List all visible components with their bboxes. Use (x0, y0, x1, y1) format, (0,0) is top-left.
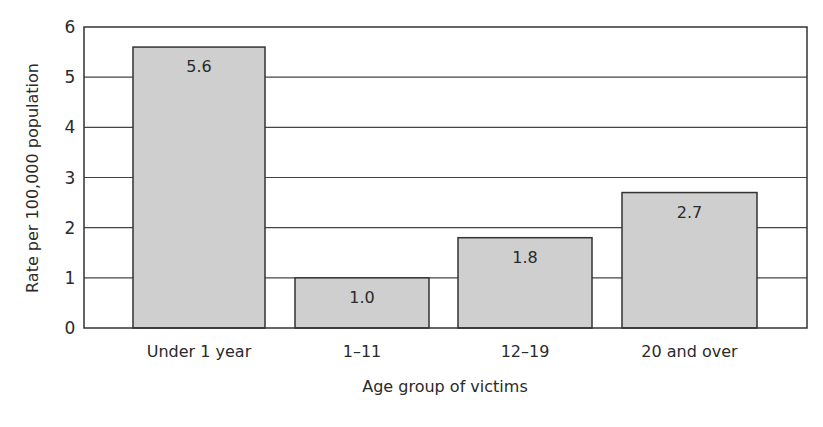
y-tick-label: 1 (65, 268, 76, 288)
x-category-label: 1–11 (343, 342, 382, 361)
bars: 5.61.01.82.7 (133, 47, 757, 328)
y-tick-label: 4 (65, 117, 76, 137)
y-tick-label: 5 (65, 67, 76, 87)
y-tick-label: 2 (65, 218, 76, 238)
y-axis-title: Rate per 100,000 population (23, 63, 42, 293)
bar (133, 47, 265, 328)
y-tick-label: 3 (65, 168, 76, 188)
bar-value-label: 5.6 (186, 57, 211, 76)
x-category-label: Under 1 year (147, 342, 252, 361)
bar-value-label: 1.8 (512, 248, 537, 267)
x-category-label: 20 and over (641, 342, 738, 361)
y-axis-ticks: 0123456 (65, 17, 76, 338)
y-tick-label: 0 (65, 318, 76, 338)
x-axis-title: Age group of victims (362, 377, 527, 396)
bar-chart: 5.61.01.82.7 0123456 Under 1 year1–1112–… (0, 0, 823, 427)
bar-value-label: 1.0 (349, 288, 374, 307)
bar-value-label: 2.7 (677, 203, 702, 222)
x-axis-labels: Under 1 year1–1112–1920 and over (147, 342, 738, 361)
y-tick-label: 6 (65, 17, 76, 37)
x-category-label: 12–19 (501, 342, 550, 361)
